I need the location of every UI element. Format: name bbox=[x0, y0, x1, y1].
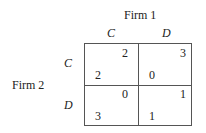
payoff-firm2: 3 bbox=[95, 109, 101, 124]
payoff-firm2: 2 bbox=[95, 68, 101, 83]
cell-dc: 0 3 bbox=[85, 86, 138, 127]
row-strategy-c: C bbox=[64, 56, 72, 71]
column-strategy-c: C bbox=[107, 26, 115, 41]
cell-dd: 1 1 bbox=[139, 86, 192, 127]
column-player-label: Firm 1 bbox=[124, 8, 156, 23]
payoff-firm1: 3 bbox=[180, 46, 186, 61]
payoff-firm2: 0 bbox=[149, 68, 155, 83]
payoff-firm2: 1 bbox=[149, 109, 155, 124]
cell-cc: 2 2 bbox=[85, 44, 138, 85]
payoff-matrix: 2 2 3 0 0 3 1 1 bbox=[84, 43, 192, 126]
payoff-firm1: 2 bbox=[122, 46, 128, 61]
row-strategy-d: D bbox=[64, 98, 73, 113]
payoff-firm1: 0 bbox=[122, 87, 128, 102]
column-strategy-d: D bbox=[162, 26, 171, 41]
payoff-firm1: 1 bbox=[180, 87, 186, 102]
cell-cd: 3 0 bbox=[139, 44, 192, 85]
row-player-label: Firm 2 bbox=[12, 78, 44, 93]
